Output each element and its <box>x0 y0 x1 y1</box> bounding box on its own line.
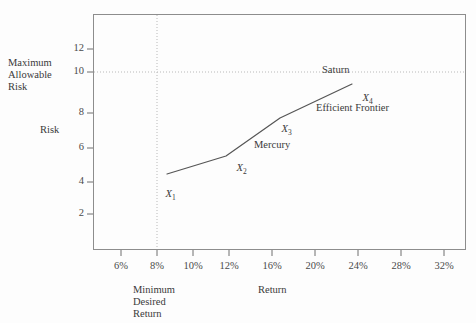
maximum-allowable-risk-label-line2: Allowable <box>8 69 60 81</box>
x-axis-ticks <box>121 250 444 256</box>
data-point-label-x2-sub: 2 <box>243 167 247 176</box>
data-point-label-x4-sub: 4 <box>369 97 373 106</box>
minimum-desired-return-label-line2: Desired <box>133 296 193 308</box>
y-tick-label-6: 6 <box>60 141 84 153</box>
x-tick-label-10pct: 10% <box>177 260 209 272</box>
x-tick-label-16pct: 16% <box>256 260 288 272</box>
x-tick-label-24pct: 24% <box>342 260 374 272</box>
y-tick-label-10: 10 <box>60 65 84 77</box>
data-point-label-x4: X4 <box>352 80 373 120</box>
y-tick-label-2: 2 <box>60 207 84 219</box>
data-point-label-x3: X3 <box>271 111 292 151</box>
data-point-label-x2: X2 <box>226 150 247 190</box>
efficient-frontier-line <box>167 84 352 174</box>
x-tick-label-6pct: 6% <box>105 260 137 272</box>
minimum-desired-return-label-line1: Minimum <box>133 284 193 296</box>
maximum-allowable-risk-label-line3: Risk <box>8 81 60 93</box>
minimum-desired-return-label-line3: Return <box>133 308 193 320</box>
data-point-label-x1: X1 <box>155 176 176 216</box>
chart-figure: 12 10 8 6 4 2 Maximum Allowable Risk Ris… <box>0 0 476 323</box>
data-point-label-x1-sub: 1 <box>172 193 176 202</box>
y-tick-label-4: 4 <box>60 175 84 187</box>
x-tick-label-8pct: 8% <box>141 260 173 272</box>
y-tick-label-8: 8 <box>60 106 84 118</box>
x-tick-label-20pct: 20% <box>299 260 331 272</box>
y-axis-title: Risk <box>40 124 59 136</box>
x-tick-label-28pct: 28% <box>385 260 417 272</box>
y-tick-label-12: 12 <box>60 42 84 54</box>
maximum-allowable-risk-label-line1: Maximum <box>8 57 60 69</box>
data-point-label-x3-sub: 3 <box>288 128 292 137</box>
x-tick-label-32pct: 32% <box>428 260 460 272</box>
y-axis-ticks <box>87 49 93 214</box>
x-tick-label-12pct: 12% <box>213 260 245 272</box>
x-axis-title: Return <box>258 284 287 296</box>
annotation-saturn: Saturn <box>322 64 349 76</box>
